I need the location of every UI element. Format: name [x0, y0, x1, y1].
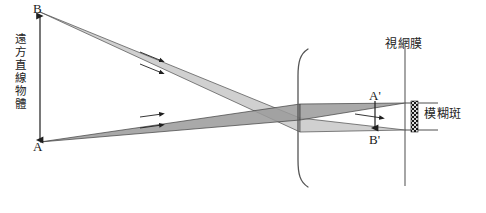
label-object-bottom-a: A [33, 140, 42, 153]
blur-spot-hatched-bar [411, 101, 418, 132]
label-retina: 視網膜 [385, 38, 423, 50]
label-image-top-a-prime: A' [369, 89, 381, 102]
optics-diagram: B A A' B' 遠方直線物體 視網膜 模糊斑 [0, 0, 486, 213]
label-distant-line-object: 遠方直線物體 [13, 33, 25, 111]
label-image-bottom-b-prime: B' [369, 133, 380, 146]
label-blur-spot: 模糊斑 [424, 108, 462, 120]
label-object-top-b: B [33, 2, 42, 15]
ray-arrow-image-b [355, 114, 382, 118]
ray-bundle-from-b-refracted [300, 118, 405, 132]
ray-bundle-from-b [40, 12, 405, 132]
ray-bundle-from-a [40, 103, 405, 142]
diagram-canvas [0, 0, 486, 213]
ray-bundle-from-a-refracted [300, 103, 405, 120]
ray-arrow-a-lower [140, 114, 162, 117]
ray-bundle-from-a-incident [40, 104, 300, 142]
